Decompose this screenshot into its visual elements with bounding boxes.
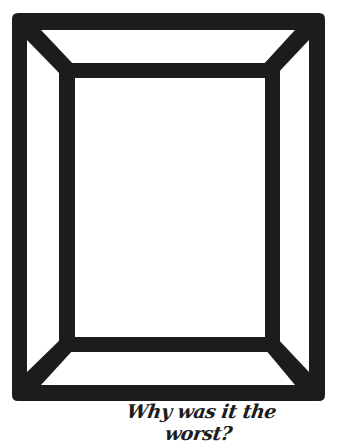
frame-shape [12, 13, 325, 401]
caption-text: Why was it the worst? [87, 400, 313, 444]
